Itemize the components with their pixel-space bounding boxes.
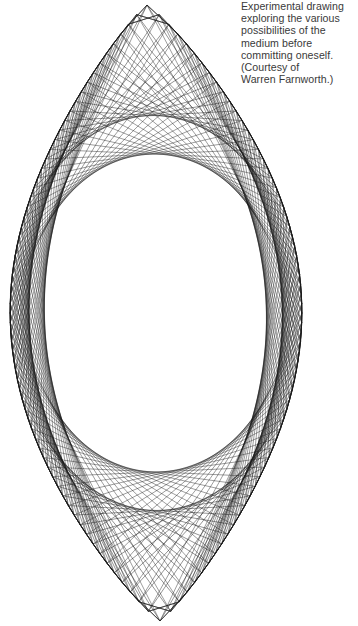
zigzag-outline: [10, 5, 302, 621]
string-art-chords: [10, 5, 302, 621]
caption-line: medium before: [241, 37, 358, 49]
string-art-drawing: [0, 0, 358, 626]
caption-line: Experimental drawing: [241, 0, 358, 12]
caption-line: Warren Farnworth.): [241, 73, 358, 85]
caption-line: exploring the various: [241, 12, 358, 24]
caption-line: possibilities of the: [241, 24, 358, 36]
caption-line: (Courtesy of: [241, 61, 358, 73]
caption-line: committing oneself.: [241, 49, 358, 61]
figure-caption: Experimental drawing exploring the vario…: [241, 0, 358, 85]
